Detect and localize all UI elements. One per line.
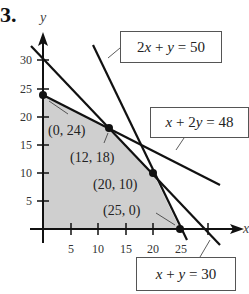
eq-rhs: = 50 (174, 39, 205, 56)
eq-var: y (167, 39, 174, 56)
point-label-12-18: (12, 18) (70, 150, 115, 166)
equation-box-x-plus-2y-48: x + 2y = 48 (150, 107, 249, 138)
y-tick-label: 10 (20, 166, 32, 180)
eq-var: x (166, 114, 173, 131)
leader-line (108, 48, 120, 58)
x-tick-label: 25 (175, 242, 187, 256)
point-label-25-0: (25, 0) (103, 203, 141, 219)
eq-var: x (145, 39, 152, 56)
x-tick-label: 10 (92, 242, 104, 256)
x-axis-label: x (242, 221, 249, 236)
y-tick-label: 5 (26, 194, 32, 208)
y-tick-label: 20 (20, 110, 32, 124)
vertex-point (105, 124, 113, 132)
eq-var: x (156, 266, 163, 283)
eq-var: y (196, 114, 203, 131)
vertex-point (149, 169, 157, 177)
x-tick-label: 20 (147, 242, 159, 256)
eq-op: + (151, 39, 167, 56)
point-label-0-24: (0, 24) (48, 123, 86, 139)
y-tick-label: 25 (20, 82, 32, 96)
point-label-20-10: (20, 10) (93, 177, 138, 193)
y-axis-label: y (38, 10, 47, 25)
vertex-point (39, 91, 47, 99)
eq-rhs: = 30 (185, 266, 216, 283)
eq-var: y (179, 266, 186, 283)
equation-box-x-plus-y-30: x + y = 30 (136, 257, 236, 291)
eq-op: + 2 (172, 114, 195, 131)
equation-box-2x-plus-y-50: 2x + y = 50 (120, 31, 222, 63)
eq-rhs: = 48 (202, 114, 233, 131)
eq-op: + (163, 266, 179, 283)
x-tick-label: 5 (68, 242, 74, 256)
x-tick-label: 15 (120, 242, 132, 256)
y-tick-label: 30 (20, 53, 32, 67)
eq-coef: 2 (137, 39, 145, 56)
leader-line (176, 138, 184, 150)
vertex-point (176, 225, 184, 233)
y-tick-label: 15 (20, 138, 32, 152)
leader-line (200, 240, 210, 257)
